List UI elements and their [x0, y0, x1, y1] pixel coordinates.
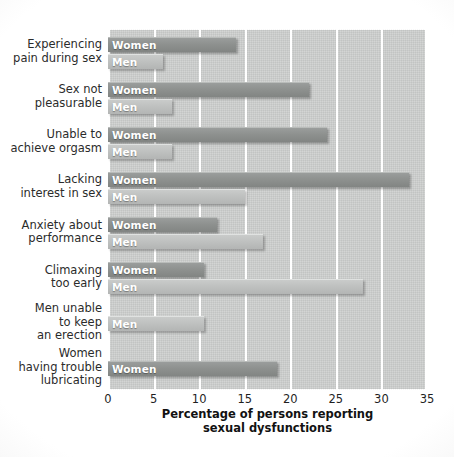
gridline-35	[425, 29, 427, 390]
category-label: Women having trouble lubricating	[0, 347, 102, 388]
x-tick-15: 15	[237, 392, 252, 406]
bar-label: Women	[108, 219, 156, 231]
bar-rect: Men	[108, 189, 245, 204]
bar-rect: Women	[108, 262, 204, 277]
bar-women: Women	[108, 127, 327, 142]
bar-rect: Women	[108, 172, 409, 187]
bar-women: Women	[108, 172, 409, 187]
x-tick-35: 35	[420, 392, 435, 406]
bar-label: Men	[108, 146, 137, 158]
bar-women: Women	[108, 262, 204, 277]
category-label: Sex not pleasurable	[0, 83, 102, 110]
bar-men: Men	[108, 54, 163, 69]
bar-label: Women	[108, 264, 156, 276]
category-label: Climaxing too early	[0, 264, 102, 291]
bar-rect: Men	[108, 234, 263, 249]
bar-rect: Men	[108, 54, 163, 69]
bar-rect: Women	[108, 217, 217, 232]
bar-rect: Women	[108, 37, 236, 52]
bar-rect: Men	[108, 144, 172, 159]
category-label: Lacking interest in sex	[0, 173, 102, 200]
bar-label: Women	[108, 84, 156, 96]
bar-women: Women	[108, 82, 309, 97]
bar-rect: Men	[108, 316, 204, 331]
bar-label: Men	[108, 281, 137, 293]
bar-rect: Men	[108, 279, 363, 294]
category-label: Unable to achieve orgasm	[0, 128, 102, 155]
bar-women: Women	[108, 217, 217, 232]
bar-women: Women	[108, 37, 236, 52]
bar-men: Men	[108, 234, 263, 249]
bar-rect: Men	[108, 99, 172, 114]
bar-men: Men	[108, 99, 172, 114]
bar-label: Men	[108, 318, 137, 330]
bar-label: Women	[108, 129, 156, 141]
bar-rect: Women	[108, 127, 327, 142]
category-label: Anxiety about performance	[0, 219, 102, 246]
gridline-25	[336, 29, 338, 390]
bar-women: Women	[108, 361, 277, 376]
x-tick-30: 30	[374, 392, 389, 406]
bar-label: Women	[108, 39, 156, 51]
bar-rect: Women	[108, 82, 309, 97]
bar-men: Men	[108, 316, 204, 331]
category-label: Experiencing pain during sex	[0, 38, 102, 65]
x-tick-0: 0	[104, 392, 111, 406]
bar-men: Men	[108, 189, 245, 204]
bar-men: Men	[108, 144, 172, 159]
bar-label: Men	[108, 101, 137, 113]
x-tick-20: 20	[283, 392, 298, 406]
x-tick-25: 25	[329, 392, 344, 406]
gridline-30	[381, 29, 383, 390]
x-axis-title: Percentage of persons reporting sexual d…	[108, 408, 427, 435]
bar-label: Men	[108, 236, 137, 248]
bar-label: Men	[108, 56, 137, 68]
bar-label: Women	[108, 174, 156, 186]
plot-area: WomenMenWomenMenWomenMenWomenMenWomenMen…	[108, 29, 427, 390]
x-tick-10: 10	[192, 392, 207, 406]
x-axis-ticks: 05101520253035	[0, 392, 454, 408]
x-tick-5: 5	[150, 392, 157, 406]
bar-men: Men	[108, 279, 363, 294]
bar-label: Women	[108, 363, 156, 375]
chart-figure: WomenMenWomenMenWomenMenWomenMenWomenMen…	[0, 0, 454, 457]
category-label: Men unable to keep an erection	[0, 302, 102, 343]
bar-label: Men	[108, 191, 137, 203]
bar-rect: Women	[108, 361, 277, 376]
